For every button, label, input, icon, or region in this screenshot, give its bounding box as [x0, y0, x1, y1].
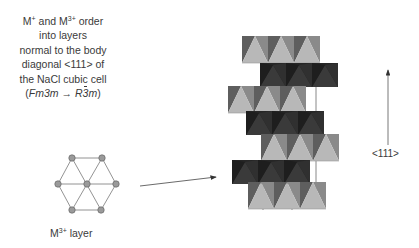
direction-label: <111> [372, 148, 399, 159]
diagram-canvas [0, 0, 419, 248]
pointer-arrow [140, 177, 216, 186]
octahedra-layer-7 [248, 182, 326, 209]
octahedra-layer-4 [246, 111, 324, 135]
m3-layer-label: M3+ layer [50, 227, 92, 239]
octahedra-layer-5 [261, 134, 339, 161]
octahedra-layer-2 [260, 63, 338, 87]
octahedra-layer-3 [228, 86, 306, 113]
octahedra-layer-1 [242, 36, 320, 63]
octahedra-layer-6 [232, 160, 310, 184]
